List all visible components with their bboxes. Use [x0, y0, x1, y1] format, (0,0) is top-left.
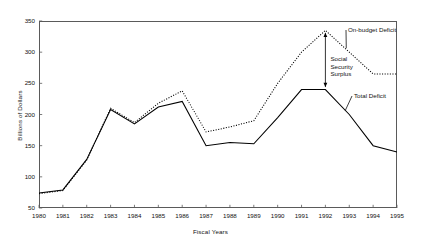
total-deficit-label: Total Deficit: [354, 92, 386, 100]
social-security-surplus-label: Social Security Surplus: [330, 55, 364, 78]
on-budget-deficit-label: On-budget Deficit: [348, 26, 396, 34]
series-total-deficit: [39, 90, 397, 193]
chart-canvas: [0, 0, 421, 244]
y-axis-ticks: [39, 21, 42, 208]
chart-figure: Billions of Dollars Fiscal Years 5010015…: [0, 0, 421, 244]
social-security-surplus-arrow: [324, 33, 328, 87]
x-axis-ticks: [39, 205, 397, 208]
